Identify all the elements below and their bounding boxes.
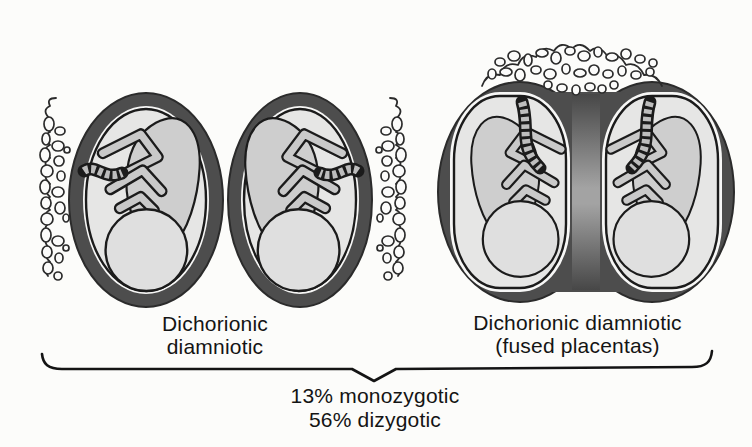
- left-pair-label-line1: Dichorionic: [125, 312, 305, 335]
- fetus-illustration: [611, 117, 701, 277]
- right-twin-pair: [438, 45, 734, 302]
- sac-left: [69, 93, 223, 307]
- fetus-illustration: [103, 118, 200, 291]
- figure-canvas: Dichorionic diamniotic Dichorionic diamn…: [0, 0, 752, 447]
- twin-placentation-diagram: [0, 0, 752, 447]
- placenta-right-icon: [376, 98, 406, 280]
- zygosity-caption: 13% monozygotic 56% dizygotic: [260, 384, 490, 432]
- right-pair-label: Dichorionic diamniotic (fused placentas): [460, 311, 695, 357]
- fetus-illustration: [471, 117, 561, 277]
- left-pair-label-line2: diamniotic: [125, 335, 305, 358]
- fetus-illustration: [245, 118, 342, 291]
- dizygotic-stat: 56% dizygotic: [260, 408, 490, 432]
- umbilical-cord-icon: [320, 169, 358, 175]
- umbilical-cord-icon: [84, 169, 122, 175]
- left-pair-label: Dichorionic diamniotic: [125, 312, 305, 358]
- left-twin-pair: [40, 93, 406, 307]
- sac-right: [228, 93, 372, 307]
- placenta-left-icon: [40, 98, 70, 280]
- monozygotic-stat: 13% monozygotic: [260, 384, 490, 408]
- right-pair-label-line1: Dichorionic diamniotic: [460, 311, 695, 334]
- dividing-septum: [572, 94, 600, 290]
- right-pair-label-line2: (fused placentas): [460, 334, 695, 357]
